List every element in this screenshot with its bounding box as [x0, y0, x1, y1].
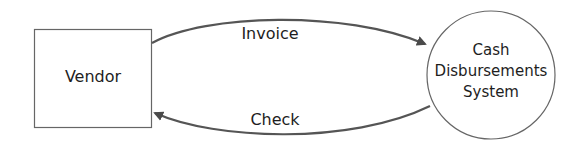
vendor-label: Vendor	[34, 67, 152, 86]
cds-label-line-2: Disbursements	[427, 61, 555, 82]
diagram-canvas: Vendor Cash Disbursements System Invoice…	[0, 0, 577, 148]
check-edge-label: Check	[225, 110, 325, 129]
cds-label-line-3: System	[427, 82, 555, 103]
invoice-edge-label: Invoice	[220, 24, 320, 43]
cds-label-line-1: Cash	[427, 40, 555, 61]
cash-disbursements-label: Cash Disbursements System	[427, 40, 555, 103]
